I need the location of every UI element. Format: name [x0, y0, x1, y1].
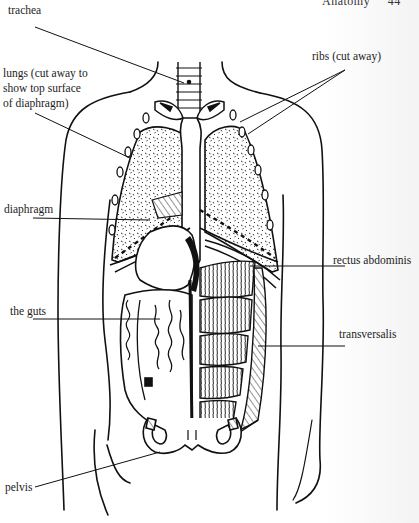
- intestines: [120, 290, 192, 432]
- label-lungs-line2: show top surface: [3, 81, 81, 95]
- label-rectus-abdominis: rectus abdominis: [333, 253, 411, 267]
- diagram-page: Anatomy 44: [0, 0, 419, 523]
- label-lungs-line1: lungs (cut away to: [3, 66, 88, 80]
- pelvis: [143, 418, 241, 453]
- label-transversalis: transversalis: [339, 327, 396, 341]
- label-trachea: trachea: [8, 3, 41, 17]
- label-lungs-line3: of diaphragm): [3, 96, 68, 110]
- label-diaphragm: diaphragm: [4, 202, 53, 216]
- linea-alba: [190, 280, 192, 432]
- label-pelvis: pelvis: [5, 480, 32, 494]
- label-the-guts: the guts: [10, 304, 46, 318]
- trachea: [176, 62, 202, 118]
- label-ribs: ribs (cut away): [312, 49, 381, 63]
- clavicles: [155, 101, 224, 119]
